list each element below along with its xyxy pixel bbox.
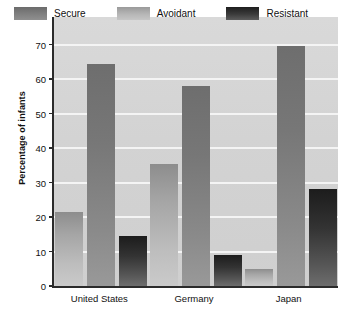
y-axis-tick: [49, 44, 54, 46]
y-axis-tick: [49, 147, 54, 149]
y-axis-tick-label: 40: [35, 143, 46, 154]
y-axis-tick-label: 70: [35, 39, 46, 50]
bar-avoidant-united-states: [55, 212, 83, 286]
legend-swatch-avoidant-icon: [117, 7, 150, 20]
bar-avoidant-germany: [150, 164, 178, 286]
x-axis-label-germany: Germany: [174, 293, 213, 304]
bar-secure-united-states: [87, 64, 115, 286]
y-axis-tick: [49, 251, 54, 253]
y-axis-tick: [49, 113, 54, 115]
y-axis-tick-label: 10: [35, 246, 46, 257]
y-axis-tick-label: 30: [35, 177, 46, 188]
legend-label-avoidant: Avoidant: [157, 8, 196, 19]
bar-chart-figure: Percentage of infants 010203040506070 Se…: [0, 0, 351, 322]
y-axis-tick-label: 50: [35, 108, 46, 119]
bar-resistant-japan: [309, 189, 337, 286]
y-axis-tick-label: 20: [35, 212, 46, 223]
legend-item-avoidant: Avoidant: [117, 7, 196, 20]
x-axis-label-japan: Japan: [276, 293, 302, 304]
legend-item-secure: Secure: [14, 7, 86, 20]
legend-label-resistant: Resistant: [266, 8, 308, 19]
y-axis-tick: [49, 182, 54, 184]
legend-label-secure: Secure: [54, 8, 86, 19]
bar-secure-japan: [277, 46, 305, 286]
y-axis-tick: [49, 285, 54, 287]
legend-swatch-resistant-icon: [226, 7, 259, 20]
legend-swatch-secure-icon: [14, 7, 47, 20]
bar-resistant-united-states: [119, 236, 147, 286]
x-axis-label-united-states: United States: [71, 293, 128, 304]
y-axis-title: Percentage of infants: [17, 53, 27, 223]
y-axis-tick: [49, 78, 54, 80]
bar-avoidant-japan: [245, 269, 273, 286]
plot-area: 010203040506070: [52, 17, 338, 288]
bar-secure-germany: [182, 86, 210, 286]
y-axis-tick: [49, 216, 54, 218]
bars-layer: [54, 17, 338, 286]
bar-resistant-germany: [214, 255, 242, 286]
y-axis-tick-label: 0: [41, 281, 46, 292]
y-axis-tick-label: 60: [35, 74, 46, 85]
legend-item-resistant: Resistant: [226, 7, 308, 20]
chart-legend: SecureAvoidantResistant: [0, 7, 351, 20]
